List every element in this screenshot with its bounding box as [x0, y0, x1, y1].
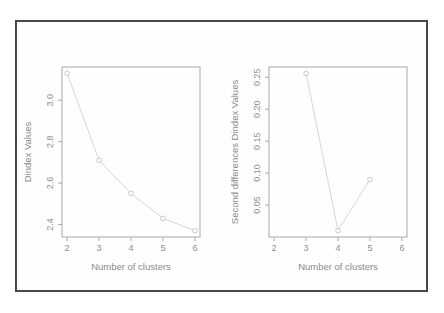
data-point-marker — [65, 71, 70, 76]
data-point-marker — [336, 228, 341, 233]
data-point-marker — [304, 71, 309, 76]
x-axis-label: Number of clusters — [91, 261, 171, 272]
series-line — [67, 73, 195, 231]
y-tick-label: 0.10 — [252, 164, 262, 182]
dindex-plot: 234562.42.62.83.0Number of clustersDinde… — [22, 67, 200, 272]
data-point-marker — [97, 158, 102, 163]
x-tick-label: 5 — [160, 243, 165, 253]
y-tick-label: 2.4 — [45, 218, 55, 231]
data-point-marker — [161, 216, 166, 221]
y-tick-label: 0.05 — [252, 196, 262, 214]
x-tick-label: 6 — [399, 243, 404, 253]
x-tick-label: 2 — [272, 243, 277, 253]
plot-box — [269, 67, 407, 237]
x-axis-label: Number of clusters — [298, 261, 378, 272]
x-tick-label: 2 — [65, 243, 70, 253]
data-point-marker — [193, 228, 198, 233]
series-line — [306, 73, 370, 230]
y-tick-label: 2.8 — [45, 135, 55, 148]
plots-svg: 234562.42.62.83.0Number of clustersDinde… — [0, 0, 444, 313]
y-tick-label: 0.20 — [252, 100, 262, 118]
plot-box — [62, 67, 200, 237]
y-tick-label: 0.25 — [252, 68, 262, 86]
data-point-marker — [368, 177, 373, 182]
second-differences-plot: 234560.050.100.150.200.25Number of clust… — [229, 67, 407, 272]
x-tick-label: 6 — [192, 243, 197, 253]
x-tick-label: 4 — [335, 243, 340, 253]
x-tick-label: 3 — [97, 243, 102, 253]
plot-canvas: 234562.42.62.83.0Number of clustersDinde… — [0, 0, 444, 313]
x-tick-label: 4 — [128, 243, 133, 253]
y-tick-label: 0.15 — [252, 132, 262, 150]
y-axis-label: Dindex Values — [22, 121, 33, 182]
y-tick-label: 2.6 — [45, 177, 55, 190]
data-point-marker — [129, 191, 134, 196]
y-axis-label: Second differences Dindex Values — [229, 80, 240, 225]
y-tick-label: 3.0 — [45, 94, 55, 107]
x-tick-label: 5 — [367, 243, 372, 253]
x-tick-label: 3 — [304, 243, 309, 253]
